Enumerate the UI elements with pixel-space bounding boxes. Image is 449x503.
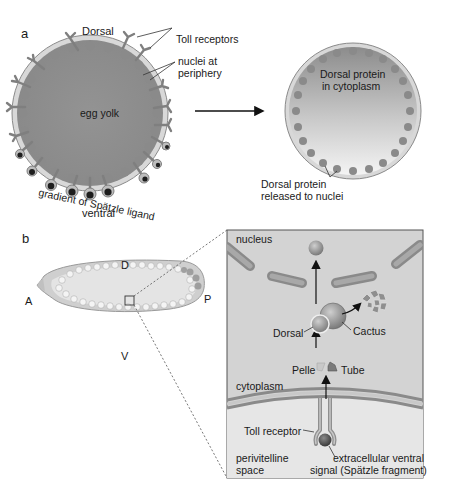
nuclei-label-line2: periphery xyxy=(178,67,222,79)
panel-a-letter: a xyxy=(21,26,28,41)
perivitelline-line2: space xyxy=(236,464,264,476)
axis-posterior-label: P xyxy=(204,293,211,305)
axis-ventral-label: V xyxy=(121,350,128,362)
pelle-label: Pelle xyxy=(292,364,315,376)
nucleus-label: nucleus xyxy=(236,233,272,245)
toll-receptors-label: Toll receptors xyxy=(176,33,238,45)
axis-anterior-label: A xyxy=(25,295,32,307)
dorsal-released-line1: Dorsal protein xyxy=(261,178,326,190)
signaling-detail-panel xyxy=(227,230,423,478)
dorsal-cytoplasm-line2: in cytoplasm xyxy=(322,80,380,92)
nuclei-label-line1: nuclei at xyxy=(178,55,217,67)
dorsal-protein xyxy=(311,315,329,333)
tube-label: Tube xyxy=(341,364,365,376)
nuclear-dorsal-protein xyxy=(309,241,324,256)
right-egg xyxy=(285,43,421,179)
axis-dorsal-label: D xyxy=(121,259,129,271)
cytoplasm-label: cytoplasm xyxy=(236,380,283,392)
dorsal-top-label: Dorsal xyxy=(82,25,114,37)
toll-receptor-label: Toll receptor xyxy=(244,425,301,437)
dorsal-label: Dorsal xyxy=(273,327,303,339)
panel-b-letter: b xyxy=(22,231,29,246)
signal-line1: extracellular ventral xyxy=(333,452,424,464)
perivitelline-line1: perivitelline xyxy=(236,452,289,464)
egg-yolk-label: egg yolk xyxy=(80,107,119,119)
dorsal-cytoplasm-line1: Dorsal protein xyxy=(320,68,385,80)
cactus-label: Cactus xyxy=(353,325,386,337)
spatzle-fragment xyxy=(319,434,332,447)
ventral-bottom-label: ventral xyxy=(82,207,115,219)
signal-line2: signal (Spätzle fragment) xyxy=(310,464,427,476)
dorsal-released-line2: released to nuclei xyxy=(261,190,343,202)
